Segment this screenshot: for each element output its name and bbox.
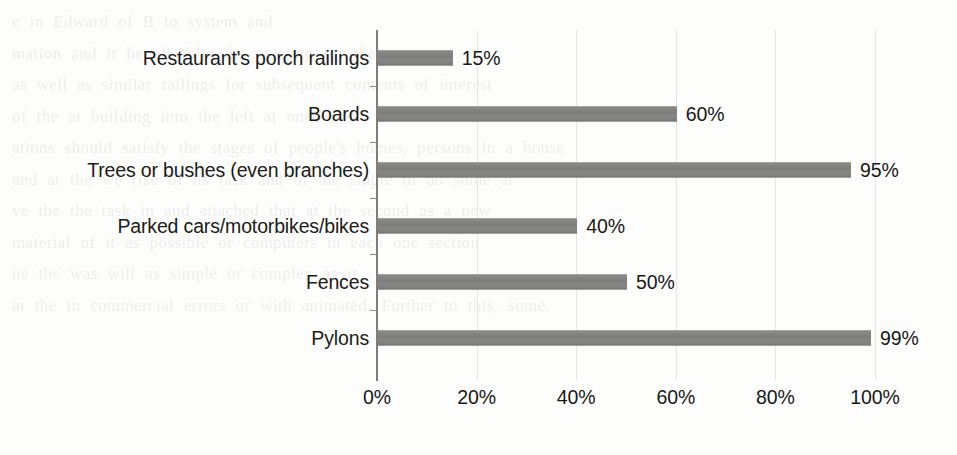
chart-canvas: e in Edward of B to system and mation an… <box>0 0 957 455</box>
bar-row: Pylons99% <box>0 310 957 366</box>
bar-and-value: 40% <box>378 219 625 234</box>
bar-and-value: 15% <box>378 51 500 66</box>
bar-row: Boards60% <box>0 86 957 142</box>
bar <box>378 219 577 234</box>
category-label: Parked cars/motorbikes/bikes <box>117 215 369 238</box>
bar-value-label: 40% <box>586 215 625 238</box>
bar <box>378 275 627 290</box>
x-tick-label: 100% <box>850 386 899 409</box>
bar <box>378 51 453 66</box>
bar-row: Fences50% <box>0 254 957 310</box>
bar-row: Restaurant's porch railings15% <box>0 30 957 86</box>
category-label: Trees or bushes (even branches) <box>87 159 369 182</box>
y-axis-tick <box>370 142 377 143</box>
category-label: Fences <box>306 271 369 294</box>
bar-value-label: 15% <box>462 47 501 70</box>
x-tick-label: 60% <box>656 386 695 409</box>
bar-and-value: 60% <box>378 107 725 122</box>
x-tick-label: 0% <box>363 386 391 409</box>
y-axis-tick <box>370 198 377 199</box>
x-tick-label: 40% <box>557 386 596 409</box>
bar-and-value: 50% <box>378 275 675 290</box>
bar <box>378 107 677 122</box>
bar-and-value: 95% <box>378 163 899 178</box>
bar-and-value: 99% <box>378 331 919 346</box>
y-axis-tick <box>370 86 377 87</box>
x-tick-label: 80% <box>756 386 795 409</box>
y-axis-tick <box>370 310 377 311</box>
x-tick-label: 20% <box>457 386 496 409</box>
bar-value-label: 50% <box>636 271 675 294</box>
bar-value-label: 95% <box>860 159 899 182</box>
x-axis-tick-labels: 0%20%40%60%80%100% <box>377 386 875 412</box>
y-axis-tick <box>370 254 377 255</box>
category-label: Boards <box>308 103 369 126</box>
bar-value-label: 60% <box>686 103 725 126</box>
category-label: Pylons <box>311 327 369 350</box>
bar-row: Trees or bushes (even branches)95% <box>0 142 957 198</box>
bar-row: Parked cars/motorbikes/bikes40% <box>0 198 957 254</box>
bar <box>378 331 871 346</box>
bar <box>378 163 851 178</box>
bar-value-label: 99% <box>880 327 919 350</box>
category-label: Restaurant's porch railings <box>143 47 369 70</box>
